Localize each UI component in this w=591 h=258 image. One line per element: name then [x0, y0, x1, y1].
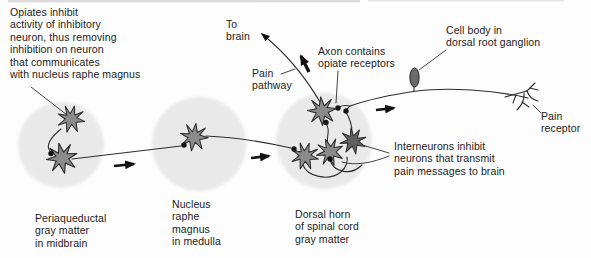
- opiate-receptor-dot: [335, 105, 340, 110]
- label-pain-receptor: Pain receptor: [541, 110, 580, 135]
- pain-receptor-pointer-line: [533, 105, 541, 113]
- cropped-text-artifact: [8, 0, 564, 2]
- label-to-brain: To brain: [226, 18, 250, 43]
- synapse-dot: [291, 146, 296, 151]
- label-opiates-note: Opiates inhibit activity of inhibitory n…: [10, 6, 140, 80]
- bold-pathway-arrow: [301, 56, 309, 72]
- synapse-dot: [323, 120, 328, 125]
- synapse-dot: [48, 151, 53, 156]
- synapse-dot: [181, 142, 186, 147]
- opiate-receptor-dot: [343, 108, 348, 113]
- cell-body-oval: [410, 68, 419, 87]
- label-region-dorsal-horn: Dorsal horn of spinal cord gray matter: [295, 208, 359, 245]
- synapse-dot: [327, 156, 332, 161]
- cell-body-pointer-line: [419, 50, 446, 70]
- label-region-raphe: Nucleus raphe magnus in medulla: [172, 198, 221, 248]
- label-cell-body: Cell body in dorsal root ganglion: [446, 24, 540, 49]
- diagram-canvas: Opiates inhibit activity of inhibitory n…: [0, 0, 591, 258]
- sensory-axon: [347, 89, 528, 109]
- label-region-periaqueductal: Periaqueductal gray matter in midbrain: [35, 212, 106, 249]
- label-pain-pathway: Pain pathway: [252, 67, 292, 92]
- label-axon-opiate-receptors: Axon contains opiate receptors: [318, 45, 395, 70]
- flow-arrow: [114, 164, 134, 166]
- flow-arrow: [376, 108, 394, 110]
- flow-arrow: [251, 156, 269, 158]
- label-interneurons: Interneurons inhibit neurons that transm…: [394, 140, 505, 177]
